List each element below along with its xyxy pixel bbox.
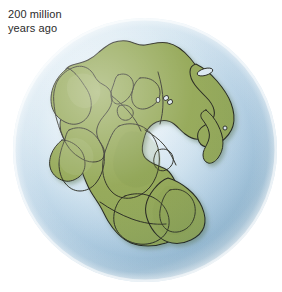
caption-text: 200 million years ago (8, 8, 128, 35)
globe-illustration (0, 0, 282, 292)
illustration-canvas: 200 million years ago (0, 0, 282, 292)
